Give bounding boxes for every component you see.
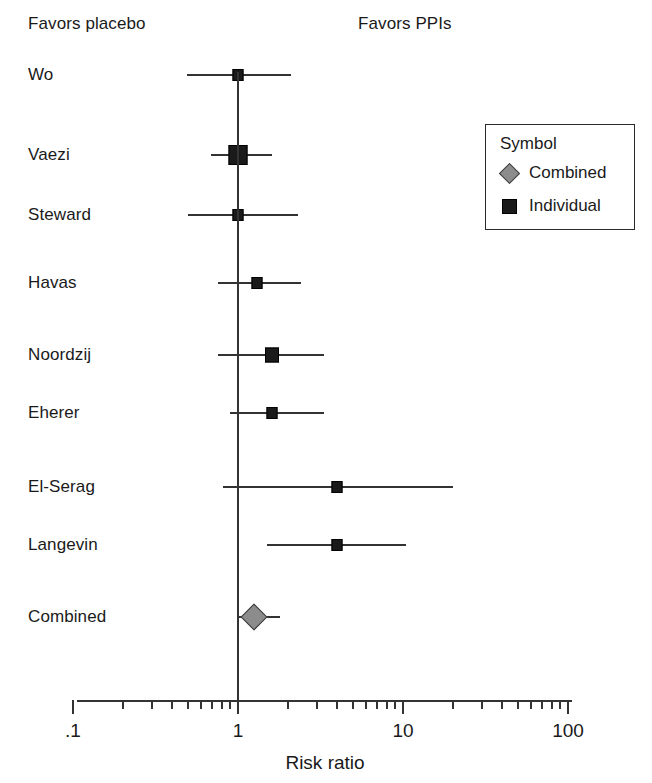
header-favors-placebo: Favors placebo [28,14,146,34]
axis-major-tick [72,700,74,714]
study-label: Wo [28,65,53,85]
axis-major-tick [402,700,404,714]
reference-line [237,72,239,700]
legend-item[interactable]: Combined [498,163,607,183]
axis-minor-tick [481,700,483,709]
axis-minor-tick [365,700,367,709]
legend-item-label: Individual [529,196,601,216]
study-estimate-square-icon [332,539,343,551]
axis-minor-tick [386,700,388,709]
study-estimate-square-icon [332,481,343,493]
axis-major-tick [567,700,569,714]
square-icon [502,199,517,214]
study-estimate-square-icon [266,407,277,419]
legend-title: Symbol [500,134,557,154]
study-label: Havas [28,273,77,293]
axis-minor-tick [352,700,354,709]
axis-minor-tick [151,700,153,709]
diamond-icon [498,162,519,183]
axis-minor-tick [376,700,378,709]
study-label: El-Serag [28,477,95,497]
axis-minor-tick [211,700,213,709]
study-label: Steward [28,205,91,225]
axis-minor-tick [187,700,189,709]
axis-tick-label: .1 [65,720,81,742]
axis-minor-tick [221,700,223,709]
axis-tick-label: 10 [392,720,413,742]
axis-minor-tick [394,700,396,709]
axis-minor-tick [541,700,543,709]
axis-minor-tick [336,700,338,709]
axis-minor-tick [316,700,318,709]
axis-minor-tick [559,700,561,709]
header-favors-ppis: Favors PPIs [358,14,452,34]
axis-minor-tick [229,700,231,709]
axis-tick-label: 100 [552,720,584,742]
axis-minor-tick [551,700,553,709]
axis-minor-tick [200,700,202,709]
study-estimate-square-icon [265,348,279,363]
axis-title: Risk ratio [285,752,364,774]
legend-symbol-slot [498,199,520,214]
axis-minor-tick [452,700,454,709]
legend-item[interactable]: Individual [498,196,601,216]
forest-plot: Favors placebo Favors PPIs WoVaeziStewar… [0,0,652,783]
study-label: Eherer [28,403,80,423]
axis-tick-label: 1 [233,720,244,742]
axis-major-tick [237,700,239,714]
legend-item-label: Combined [529,163,607,183]
study-label: Combined [28,607,106,627]
axis-minor-tick [501,700,503,709]
axis-minor-tick [530,700,532,709]
study-estimate-square-icon [251,277,262,289]
legend-symbol-slot [498,166,520,181]
axis-minor-tick [287,700,289,709]
study-label: Langevin [28,535,98,555]
axis-minor-tick [122,700,124,709]
legend: Symbol CombinedIndividual [485,124,635,230]
study-label: Vaezi [28,145,70,165]
study-label: Noordzij [28,345,91,365]
pooled-estimate-diamond-icon [241,604,268,631]
axis-minor-tick [517,700,519,709]
axis-minor-tick [171,700,173,709]
